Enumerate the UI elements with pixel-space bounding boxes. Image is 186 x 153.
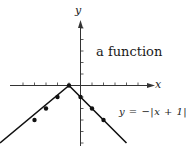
function-line — [0, 86, 127, 144]
axes — [10, 20, 155, 146]
y-axis-label: y — [75, 4, 81, 17]
x-axis-label: x — [155, 78, 161, 91]
equation-label: y = −|x + 1| — [119, 106, 186, 117]
chart-title: a function — [96, 44, 162, 59]
function-graph — [0, 0, 186, 153]
data-points — [32, 83, 105, 122]
